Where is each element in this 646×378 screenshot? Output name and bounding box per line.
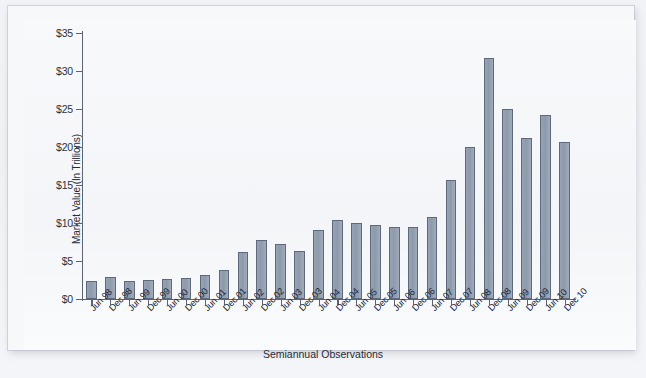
bar bbox=[446, 180, 457, 299]
y-tick-label: $10 bbox=[56, 217, 73, 229]
y-tick-label: $35 bbox=[56, 27, 73, 39]
x-axis-title: Semiannual Observations bbox=[0, 348, 646, 360]
y-tick-label: $30 bbox=[56, 65, 73, 77]
plot-area: $0$5$10$15$20$25$30$35 bbox=[82, 33, 574, 299]
bar-series bbox=[82, 33, 574, 299]
y-axis-title: Market Value (In Trillions) bbox=[71, 134, 82, 244]
bar bbox=[484, 58, 495, 299]
bar bbox=[540, 115, 551, 299]
y-tick-label: $25 bbox=[56, 103, 73, 115]
y-tick-label: $5 bbox=[62, 255, 73, 267]
bar bbox=[502, 109, 513, 299]
y-tick-label: $20 bbox=[56, 141, 73, 153]
bar bbox=[521, 138, 532, 299]
y-tick-label: $0 bbox=[62, 293, 73, 305]
bar bbox=[559, 142, 570, 299]
y-tick-mark bbox=[76, 299, 82, 300]
figure-page: Market Value (In Trillions) $0$5$10$15$2… bbox=[0, 0, 646, 378]
bar bbox=[465, 147, 476, 299]
bar bbox=[86, 281, 97, 299]
y-tick-label: $15 bbox=[56, 179, 73, 191]
